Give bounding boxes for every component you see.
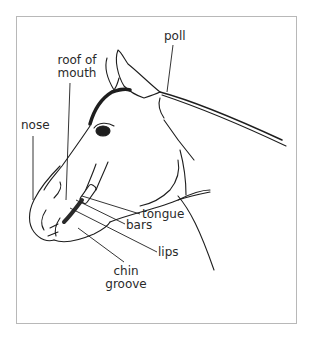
label-bars: bars [126, 219, 152, 232]
leader-tongue [82, 196, 140, 214]
label-roof-of-mouth: roof of mouth [52, 54, 102, 80]
leader-poll [167, 45, 173, 92]
horse-head-illustration [0, 0, 312, 337]
label-poll: poll [164, 30, 186, 43]
leader-chin-groove [78, 228, 124, 262]
label-lips: lips [158, 246, 179, 259]
label-chin-groove-line2: groove [104, 278, 148, 291]
leader-roof-of-mouth [66, 83, 70, 200]
leader-bars [76, 200, 125, 224]
label-chin-groove: chin groove [104, 265, 148, 291]
label-nose: nose [21, 119, 50, 132]
label-roof-of-mouth-line2: mouth [52, 67, 102, 80]
